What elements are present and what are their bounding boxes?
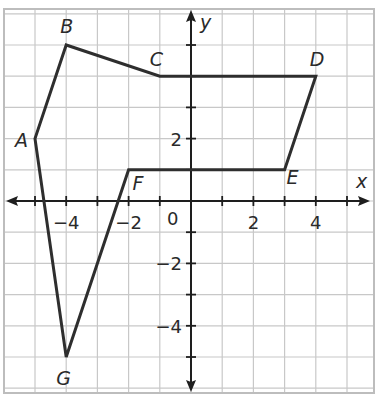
x-tick-label: −2 bbox=[115, 212, 142, 233]
x-tick-label: 2 bbox=[248, 212, 259, 233]
vertex-label-g: G bbox=[56, 367, 71, 389]
vertex-label-f: F bbox=[133, 172, 145, 194]
y-tick-label: −2 bbox=[155, 253, 182, 274]
origin-label: 0 bbox=[167, 208, 178, 229]
coordinate-plane: −4−2242−2−4 ABCDEFG x y 0 bbox=[0, 0, 381, 405]
vertex-label-b: B bbox=[60, 15, 73, 37]
x-axis-label: x bbox=[355, 170, 368, 192]
vertex-label-e: E bbox=[287, 166, 299, 188]
x-tick-label: −4 bbox=[53, 212, 80, 233]
y-tick-label: 2 bbox=[171, 129, 182, 150]
y-axis-label: y bbox=[199, 11, 212, 33]
vertex-label-d: D bbox=[310, 48, 325, 70]
x-tick-label: 4 bbox=[310, 212, 321, 233]
vertex-label-c: C bbox=[150, 48, 164, 70]
vertex-label-a: A bbox=[13, 129, 28, 151]
y-tick-label: −4 bbox=[155, 316, 182, 337]
